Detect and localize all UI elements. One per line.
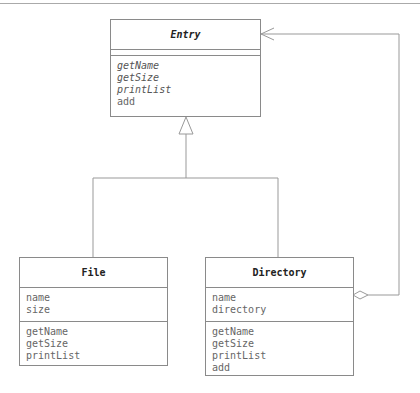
class-name: File xyxy=(20,258,167,288)
methods-section: getName getSize printList add xyxy=(206,322,353,378)
methods-section: getName getSize printList add xyxy=(111,56,260,112)
generalization-triangle-icon xyxy=(179,117,193,134)
attribute: directory xyxy=(212,304,347,316)
attribute: size xyxy=(26,304,161,316)
methods-section: getName getSize printList xyxy=(20,322,167,366)
class-entry: Entry getName getSize printList add xyxy=(110,19,261,117)
method: printList xyxy=(26,350,161,362)
attributes-section: name size xyxy=(20,288,167,322)
attribute: name xyxy=(212,292,347,304)
class-directory: Directory name directory getName getSize… xyxy=(205,257,354,376)
method: getName xyxy=(117,60,254,72)
class-name: Directory xyxy=(206,258,353,288)
method: printList xyxy=(212,350,347,362)
method: add xyxy=(212,362,347,374)
method: getSize xyxy=(212,338,347,350)
class-file: File name size getName getSize printList xyxy=(19,257,168,366)
method: printList xyxy=(117,84,254,96)
attribute: name xyxy=(26,292,161,304)
method: getSize xyxy=(117,72,254,84)
method: getName xyxy=(212,326,347,338)
method: add xyxy=(117,96,254,108)
aggregation-diamond-icon xyxy=(353,291,368,299)
method: getName xyxy=(26,326,161,338)
class-name: Entry xyxy=(111,20,260,50)
attributes-section: name directory xyxy=(206,288,353,322)
method: getSize xyxy=(26,338,161,350)
